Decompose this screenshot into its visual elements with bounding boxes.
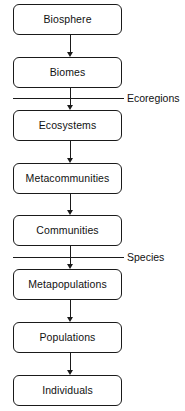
divider-label-ecoregions: Ecoregions (127, 93, 180, 104)
node-label: Ecosystems (39, 120, 97, 131)
divider-label-species: Species (127, 252, 164, 263)
connector-shaft (70, 300, 71, 317)
node-communities[interactable]: Communities (13, 215, 122, 246)
connector-biomes-ecosystems (66, 88, 75, 110)
node-ecosystems[interactable]: Ecosystems (13, 110, 122, 141)
diagram-canvas: Biosphere Biomes Ecosystems Metacommunit… (0, 0, 185, 411)
node-label: Populations (40, 332, 96, 343)
node-label: Biosphere (43, 14, 91, 25)
connector-biosphere-biomes (66, 35, 75, 57)
connector-shaft (70, 35, 71, 52)
connector-shaft (70, 353, 71, 370)
node-populations[interactable]: Populations (13, 322, 122, 353)
node-label: Metapopulations (28, 279, 107, 290)
node-metacommunities[interactable]: Metacommunities (13, 163, 122, 194)
node-label: Individuals (42, 385, 93, 396)
divider-line-species (13, 257, 124, 258)
connector-shaft (70, 88, 71, 105)
connector-populations-individuals (66, 353, 75, 375)
connector-metacommunities-communities (66, 194, 75, 215)
node-label: Biomes (50, 67, 86, 78)
connector-ecosystems-metacommunities (66, 141, 75, 163)
node-biomes[interactable]: Biomes (13, 57, 122, 88)
connector-shaft (70, 194, 71, 210)
node-biosphere[interactable]: Biosphere (13, 4, 122, 35)
node-label: Metacommunities (26, 173, 110, 184)
connector-shaft (70, 141, 71, 158)
node-individuals[interactable]: Individuals (13, 375, 122, 406)
node-metapopulations[interactable]: Metapopulations (13, 269, 122, 300)
divider-line-ecoregions (13, 98, 124, 99)
connector-shaft (70, 246, 71, 264)
node-label: Communities (36, 225, 98, 236)
connector-metapopulations-populations (66, 300, 75, 322)
